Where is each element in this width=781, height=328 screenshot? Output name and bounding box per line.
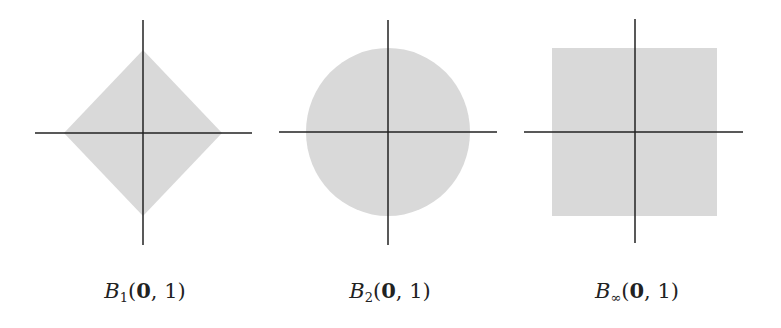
label-center-vector: 0 — [381, 278, 396, 303]
label-base: B — [349, 279, 364, 303]
label-subscript: ∞ — [610, 290, 621, 305]
label-open-paren: ( — [128, 279, 136, 303]
label-center-vector: 0 — [136, 278, 151, 303]
label-close-paren: ) — [178, 279, 186, 303]
l2-ball-label: B2(0, 1) — [310, 278, 470, 305]
label-base: B — [595, 279, 610, 303]
l2-ball-panel — [279, 20, 497, 245]
label-radius: , 1 — [644, 279, 671, 303]
label-close-paren: ) — [671, 279, 679, 303]
label-base: B — [104, 279, 119, 303]
label-subscript: 1 — [120, 290, 128, 305]
label-subscript: 2 — [365, 290, 373, 305]
label-radius: , 1 — [151, 279, 178, 303]
label-center-vector: 0 — [629, 278, 644, 303]
label-close-paren: ) — [423, 279, 431, 303]
label-radius: , 1 — [396, 279, 423, 303]
label-open-paren: ( — [373, 279, 381, 303]
l1-ball-label: B1(0, 1) — [65, 278, 225, 305]
l1-ball-panel — [35, 20, 252, 245]
linf-ball-label: B∞(0, 1) — [557, 278, 717, 305]
linf-ball-panel — [524, 19, 743, 243]
